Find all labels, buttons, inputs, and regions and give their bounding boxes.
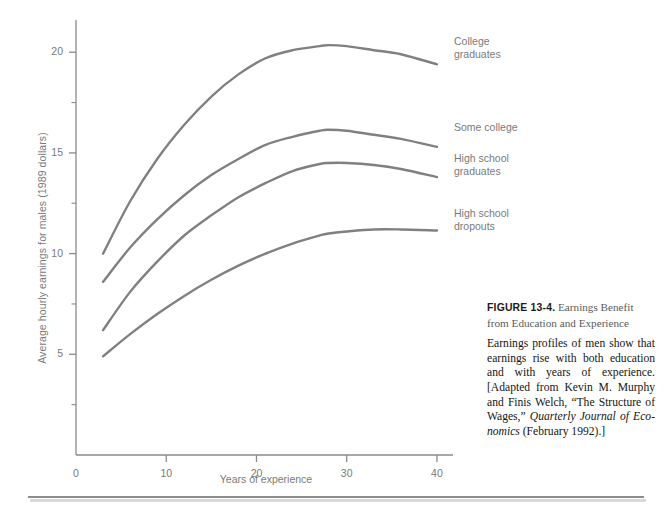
x-tick-label: 10	[151, 467, 181, 479]
bottom-rule	[28, 496, 644, 498]
caption-body: Earnings profiles of men show that earni…	[487, 337, 655, 439]
y-tick-label: 20	[29, 45, 63, 57]
y-tick-label: 15	[29, 146, 63, 158]
curve-label-2: High school graduates	[454, 152, 509, 178]
curve-label-1: Some college	[454, 121, 518, 134]
x-tick-label: 40	[422, 467, 452, 479]
figure-caption: FIGURE 13-4. Earnings Benefit from Educa…	[487, 300, 655, 439]
caption-figure-number: FIGURE 13-4.	[487, 302, 555, 313]
curve-label-0: College graduates	[454, 35, 501, 61]
x-tick-label: 20	[241, 467, 271, 479]
y-tick-label: 5	[29, 347, 63, 359]
chart-plot-area: Average hourly earnings for males (1989 …	[0, 0, 460, 500]
chart-svg	[0, 0, 460, 500]
caption-body-text-2: (February 1992).]	[520, 425, 605, 438]
bottom-rule-shadow	[30, 499, 646, 502]
curve-label-3: High school dropouts	[454, 207, 509, 233]
figure-page: Average hourly earnings for males (1989 …	[0, 0, 672, 526]
series-line-1	[103, 130, 437, 282]
series-line-2	[103, 163, 437, 330]
caption-title: FIGURE 13-4. Earnings Benefit from Educa…	[487, 300, 655, 330]
y-tick-label: 10	[29, 247, 63, 259]
series-line-3	[103, 229, 437, 356]
x-tick-label: 30	[332, 467, 362, 479]
x-tick-label: 0	[61, 467, 91, 479]
